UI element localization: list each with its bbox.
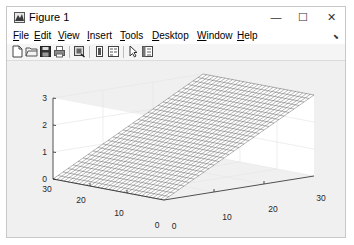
z-tick-label: 0 [42, 174, 47, 184]
x-tick-label: 10 [222, 212, 232, 222]
y-tick-label: 20 [76, 195, 86, 205]
figure-window: Figure 1 — ☐ ✕ File Edit View Insert Too… [6, 6, 346, 238]
z-tick-label: 2 [42, 120, 47, 130]
x-tick-label: 20 [268, 204, 278, 214]
y-tick-label: 30 [42, 184, 52, 194]
y-tick-label: 0 [155, 220, 160, 230]
figure-canvas[interactable]: 3 2 1 0 30 20 10 0 0 10 20 30 [7, 61, 345, 237]
z-tick-label: 1 [42, 147, 47, 157]
z-tick-label: 3 [42, 93, 47, 103]
surface-plot-3d[interactable]: 3 2 1 0 30 20 10 0 0 10 20 30 [1, 1, 354, 245]
x-tick-label: 0 [172, 221, 177, 231]
y-tick-label: 10 [114, 208, 124, 218]
x-tick-label: 30 [316, 193, 326, 203]
